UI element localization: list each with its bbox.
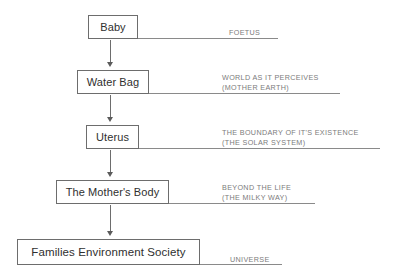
node-uterus[interactable]: Uterus <box>86 125 139 149</box>
node-mothers-body[interactable]: The Mother's Body <box>56 180 169 204</box>
node-water-bag[interactable]: Water Bag <box>77 70 149 94</box>
node-water-bag-label: Water Bag <box>87 76 139 88</box>
annotation-universe: UNIVERSE <box>230 255 270 265</box>
arrow-head <box>107 231 113 236</box>
annotation-world-line2: (MOTHER EARTH) <box>222 83 319 93</box>
arrow-head <box>107 117 113 122</box>
annotation-foetus: FOETUS <box>229 28 260 38</box>
node-uterus-label: Uterus <box>96 131 129 143</box>
arrow-stem <box>110 205 111 231</box>
arrow-stem <box>110 40 111 62</box>
annotation-beyond-line1: BEYOND THE LIFE <box>222 183 291 193</box>
node-mothers-body-label: The Mother's Body <box>66 186 160 198</box>
annotation-world-line1: WORLD AS IT PERCEIVES <box>222 73 319 83</box>
annotation-boundary-line1: THE BOUNDARY OF IT'S EXISTENCE <box>222 128 359 138</box>
annotation-boundary: THE BOUNDARY OF IT'S EXISTENCE (THE SOLA… <box>222 128 359 147</box>
rule-line-foetus <box>132 38 278 39</box>
flowchart-canvas: Baby FOETUS Water Bag WORLD AS IT PERCEI… <box>0 0 394 280</box>
node-families-environment-society-label: Families Environment Society <box>31 246 185 258</box>
annotation-boundary-line2: (THE SOLAR SYSTEM) <box>222 138 359 148</box>
rule-line-boundary <box>133 148 380 149</box>
arrow-down-icon-baby-to-waterbag <box>106 40 114 67</box>
rule-line-beyond <box>163 203 315 204</box>
node-baby-label: Baby <box>100 21 125 33</box>
node-families-environment-society[interactable]: Families Environment Society <box>17 239 200 265</box>
arrow-down-icon-waterbag-to-uterus <box>106 95 114 122</box>
annotation-beyond-line2: (THE MILKY WAY) <box>222 193 291 203</box>
arrow-stem <box>110 95 111 117</box>
arrow-head <box>107 172 113 177</box>
annotation-world: WORLD AS IT PERCEIVES (MOTHER EARTH) <box>222 73 319 92</box>
node-baby[interactable]: Baby <box>88 15 138 39</box>
arrow-down-icon-mother-to-families <box>106 205 114 236</box>
arrow-down-icon-uterus-to-mother <box>106 150 114 177</box>
rule-line-world <box>143 93 340 94</box>
annotation-universe-line1: UNIVERSE <box>230 255 270 265</box>
arrow-head <box>107 62 113 67</box>
arrow-stem <box>110 150 111 172</box>
annotation-beyond: BEYOND THE LIFE (THE MILKY WAY) <box>222 183 291 202</box>
annotation-foetus-line1: FOETUS <box>229 28 260 38</box>
